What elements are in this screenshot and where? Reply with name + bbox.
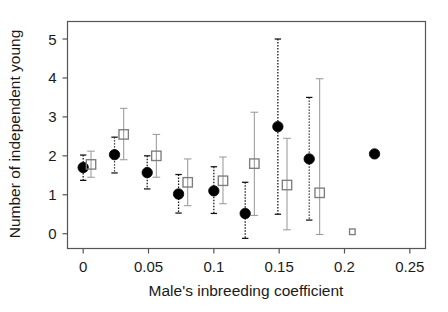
data-point-filled-circle bbox=[109, 149, 119, 159]
x-tick-label: 0.15 bbox=[265, 258, 294, 275]
x-tick-labels: 00.050.10.150.20.25 bbox=[79, 258, 424, 275]
data-point-filled-circle bbox=[240, 208, 250, 218]
x-tick-label: 0 bbox=[79, 258, 87, 275]
data-point-filled-circle bbox=[273, 121, 283, 131]
x-tick-label: 0.25 bbox=[395, 258, 424, 275]
x-axis-title: Male's inbreeding coefficient bbox=[149, 282, 345, 299]
y-tick-label: 0 bbox=[48, 225, 56, 242]
data-point-filled-circle bbox=[173, 189, 183, 199]
scatter-plot: 012345 00.050.10.150.20.25 Male's inbree… bbox=[0, 0, 448, 312]
data-point-filled-circle bbox=[304, 154, 314, 164]
y-axis-title: Number of independent young bbox=[6, 30, 23, 239]
figure-container: 012345 00.050.10.150.20.25 Male's inbree… bbox=[0, 0, 448, 312]
x-tick-label: 0.05 bbox=[134, 258, 163, 275]
error-bars bbox=[80, 39, 323, 238]
y-tick-labels: 012345 bbox=[48, 31, 56, 243]
x-tick-label: 0.2 bbox=[334, 258, 355, 275]
data-point-filled-circle bbox=[369, 149, 379, 159]
data-point-filled-circle bbox=[142, 167, 152, 177]
y-tick-label: 3 bbox=[48, 108, 56, 125]
y-axis-ticks bbox=[63, 39, 68, 234]
y-tick-label: 2 bbox=[48, 147, 56, 164]
x-tick-label: 0.1 bbox=[203, 258, 224, 275]
y-tick-label: 4 bbox=[48, 69, 56, 86]
y-tick-label: 5 bbox=[48, 31, 56, 48]
data-point-filled-circle bbox=[209, 186, 219, 196]
y-tick-label: 1 bbox=[48, 186, 56, 203]
x-axis-ticks bbox=[83, 249, 410, 254]
data-point-open-square bbox=[350, 229, 356, 235]
